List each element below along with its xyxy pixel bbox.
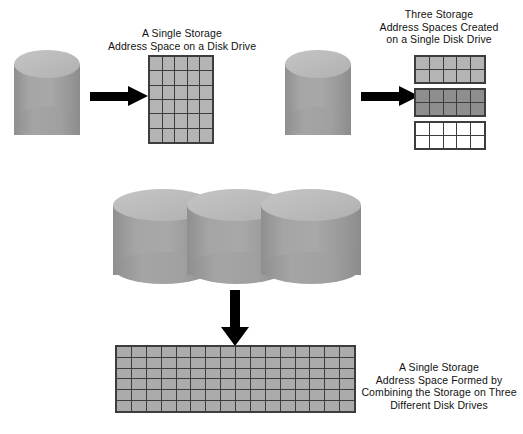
grid-cell bbox=[471, 57, 484, 69]
grid-cell bbox=[150, 114, 162, 127]
grid-cell bbox=[340, 369, 354, 379]
grid-cell bbox=[163, 57, 175, 70]
grid-cell bbox=[416, 57, 429, 69]
grid-cell bbox=[132, 390, 146, 400]
address-space-grid-combined bbox=[115, 345, 356, 413]
grid-cell bbox=[340, 401, 354, 411]
grid-cell bbox=[132, 401, 146, 411]
grid-cell bbox=[416, 103, 429, 115]
grid-cell bbox=[147, 390, 161, 400]
grid-cell bbox=[281, 401, 295, 411]
grid-cell bbox=[175, 100, 187, 113]
grid-cell bbox=[444, 57, 457, 69]
caption-single-space-single-drive: A Single Storage Address Space on a Disk… bbox=[104, 27, 260, 52]
grid-cell bbox=[310, 390, 324, 400]
arrow-shaft bbox=[361, 92, 400, 101]
diagram-canvas: A Single Storage Address Space on a Disk… bbox=[0, 0, 523, 434]
grid-cell bbox=[471, 136, 484, 148]
grid-cell bbox=[266, 347, 280, 357]
grid-cell bbox=[340, 390, 354, 400]
arrow-head bbox=[221, 327, 249, 346]
grid-cell bbox=[251, 358, 265, 368]
grid-cell bbox=[200, 86, 212, 99]
grid-cell bbox=[147, 358, 161, 368]
cylinder-top-cap bbox=[285, 50, 351, 78]
grid-cell bbox=[200, 57, 212, 70]
grid-cell bbox=[471, 90, 484, 102]
arrow-shaft bbox=[230, 290, 240, 328]
grid-cell bbox=[150, 100, 162, 113]
disk-drive-cylinder-5 bbox=[261, 189, 361, 294]
cylinder-bottom-cap bbox=[14, 107, 80, 135]
grid-cell bbox=[416, 123, 429, 135]
grid-cell bbox=[236, 358, 250, 368]
grid-cell bbox=[281, 379, 295, 389]
address-space-grid-partition-2 bbox=[414, 88, 486, 117]
grid-cell bbox=[251, 369, 265, 379]
grid-cell bbox=[163, 100, 175, 113]
grid-cell bbox=[200, 114, 212, 127]
grid-cell bbox=[444, 123, 457, 135]
grid-cell bbox=[444, 103, 457, 115]
grid-cell bbox=[281, 390, 295, 400]
grid-cell bbox=[132, 379, 146, 389]
grid-cell bbox=[132, 358, 146, 368]
grid-cell bbox=[162, 390, 176, 400]
grid-cell bbox=[325, 390, 339, 400]
grid-cell bbox=[206, 358, 220, 368]
grid-cell bbox=[310, 347, 324, 357]
grid-cell bbox=[150, 86, 162, 99]
grid-cell bbox=[206, 369, 220, 379]
grid-cell bbox=[200, 129, 212, 142]
grid-cell bbox=[175, 114, 187, 127]
grid-cell bbox=[188, 100, 200, 113]
grid-cell bbox=[266, 390, 280, 400]
grid-cell bbox=[191, 401, 205, 411]
flow-arrow-down bbox=[221, 290, 249, 345]
grid-cell bbox=[325, 358, 339, 368]
grid-cell bbox=[266, 358, 280, 368]
grid-cell bbox=[162, 347, 176, 357]
grid-cell bbox=[162, 379, 176, 389]
grid-cell bbox=[281, 358, 295, 368]
grid-cell bbox=[177, 379, 191, 389]
grid-cell bbox=[296, 379, 310, 389]
arrow-head bbox=[128, 86, 148, 106]
grid-cell bbox=[177, 390, 191, 400]
grid-cell bbox=[221, 379, 235, 389]
grid-cell bbox=[117, 369, 131, 379]
grid-cell bbox=[188, 71, 200, 84]
grid-cell bbox=[457, 90, 470, 102]
grid-cell bbox=[221, 369, 235, 379]
grid-cell bbox=[191, 369, 205, 379]
grid-cell bbox=[471, 70, 484, 82]
grid-cell bbox=[457, 103, 470, 115]
grid-cell bbox=[175, 86, 187, 99]
grid-cell bbox=[430, 103, 443, 115]
cylinder-bottom-cap bbox=[285, 107, 351, 135]
grid-cell bbox=[471, 103, 484, 115]
grid-cell bbox=[188, 114, 200, 127]
grid-cell bbox=[296, 390, 310, 400]
grid-cell bbox=[340, 358, 354, 368]
grid-cell bbox=[281, 369, 295, 379]
grid-cell bbox=[221, 390, 235, 400]
address-space-grid-partition-1 bbox=[414, 55, 486, 84]
grid-cell bbox=[325, 401, 339, 411]
grid-cell bbox=[200, 71, 212, 84]
cylinder-top-cap bbox=[261, 189, 361, 221]
grid-cell bbox=[163, 86, 175, 99]
grid-cell bbox=[471, 123, 484, 135]
grid-cell bbox=[191, 390, 205, 400]
grid-cell bbox=[175, 129, 187, 142]
grid-cell bbox=[147, 401, 161, 411]
grid-cell bbox=[281, 347, 295, 357]
cylinder-bottom-cap bbox=[261, 252, 361, 284]
grid-cell bbox=[457, 57, 470, 69]
grid-cell bbox=[177, 358, 191, 368]
grid-cell bbox=[444, 70, 457, 82]
grid-cell bbox=[117, 401, 131, 411]
grid-cell bbox=[188, 86, 200, 99]
grid-cell bbox=[310, 358, 324, 368]
grid-cell bbox=[266, 369, 280, 379]
